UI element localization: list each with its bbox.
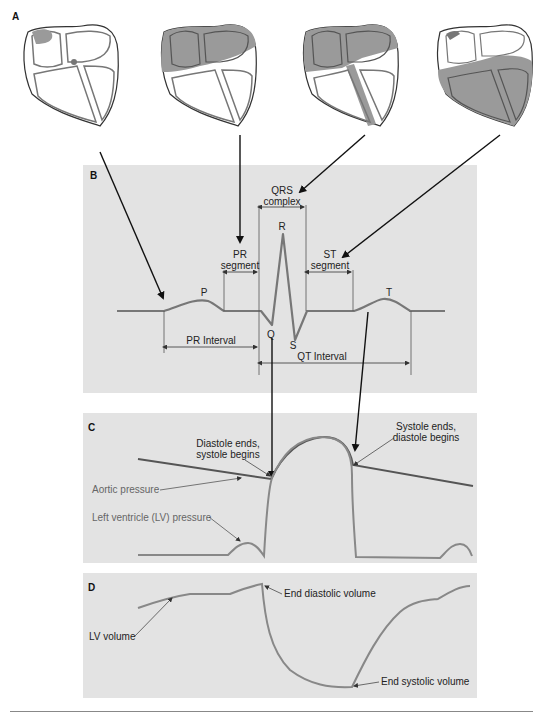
qrs-label-line1: QRS [271,185,293,196]
end-systolic-pointer [354,682,379,686]
r-wave-label: R [278,221,285,232]
st-segment-label-line2: segment [311,260,350,271]
t-wave-label: T [386,287,392,298]
heart-stage-2 [161,25,256,126]
systole-ends-pointer [354,438,394,465]
s-wave-label: S [290,340,297,351]
diastole-ends-label-line1: Diastole ends, [196,438,259,449]
panel-b-label: B [90,170,97,181]
lv-volume-label: LV volume [89,631,136,642]
qrs-label-line2: complex [263,196,300,207]
panel-a-label: A [12,11,19,22]
arrow-heart4-to-st-segment [343,135,500,257]
q-wave-label: Q [267,329,275,340]
pr-interval-label: PR Interval [186,335,235,346]
end-systolic-label: End systolic volume [381,676,470,687]
aortic-pressure-label: Aortic pressure [92,484,160,495]
aortic-pressure-trace [138,437,473,486]
heart-stage-4 [438,25,533,126]
aortic-pressure-pointer [160,478,241,490]
figure-canvas: A B [0,0,543,714]
st-segment-label-line1: ST [324,249,337,260]
diastole-ends-pointer [245,460,270,476]
pr-segment-label-line1: PR [233,249,247,260]
arrow-t-to-systole-end [355,312,368,450]
lv-pressure-pointer [209,517,240,541]
p-wave-label: P [201,287,208,298]
arrow-heart1-to-p-wave [100,152,163,298]
lv-pressure-label: Left ventricle (LV) pressure [92,512,212,523]
systole-ends-label-line2: diastole begins [393,432,460,443]
panel-d-label: D [88,582,95,593]
lv-volume-trace [138,584,470,687]
heart-stage-3 [304,25,399,126]
end-diastolic-label: End diastolic volume [284,588,376,599]
heart-stage-1 [24,25,118,126]
systole-ends-label-line1: Systole ends, [396,421,456,432]
arrow-heart3-to-qrs [300,135,365,192]
qt-interval-label: QT Interval [297,351,346,362]
panel-c-label: C [88,422,95,433]
diastole-ends-label-line2: systole begins [196,449,259,460]
pr-segment-label-line2: segment [221,260,260,271]
end-diastolic-pointer [265,586,282,594]
ecg-trace [117,234,445,340]
lv-pressure-trace [138,437,472,558]
